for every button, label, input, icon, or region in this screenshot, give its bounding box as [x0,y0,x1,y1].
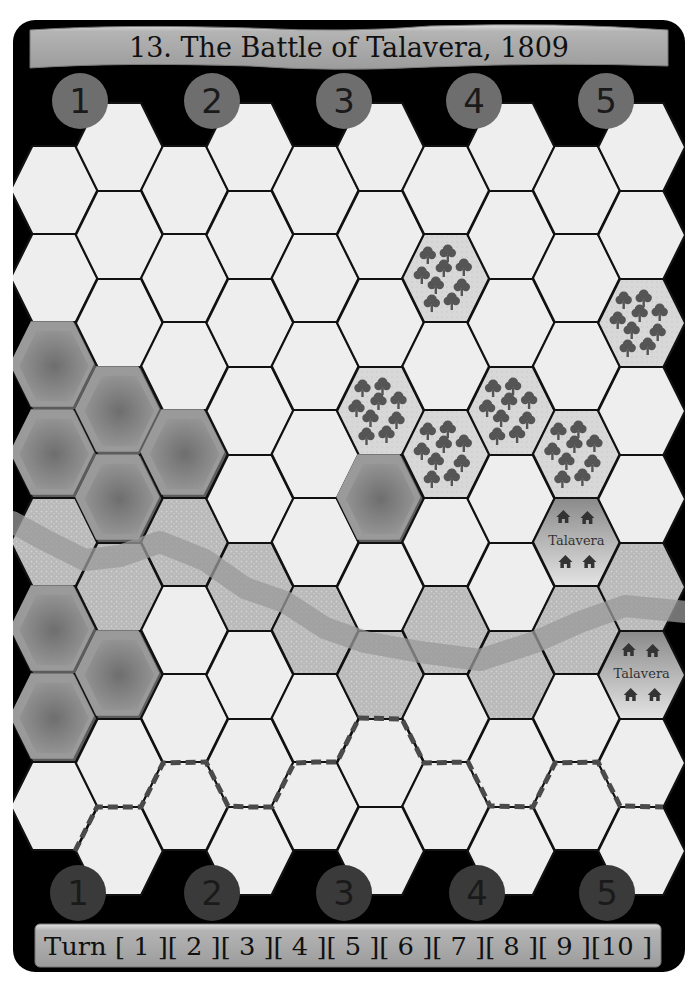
bottom-section-marker-3: 3 [316,865,372,921]
svg-text:3: 3 [333,81,355,121]
turn-track-text: Turn [ 1 ][ 2 ][ 3 ][ 4 ][ 5 ][ 6 ][ 7 ]… [44,933,652,961]
svg-text:1: 1 [67,873,89,913]
bottom-section-marker-4: 4 [449,865,505,921]
bottom-section-marker-5: 5 [579,865,635,921]
svg-text:2: 2 [201,873,223,913]
svg-text:2: 2 [201,81,223,121]
top-section-marker-4: 4 [446,73,502,129]
top-section-marker-5: 5 [578,73,634,129]
svg-text:4: 4 [466,873,488,913]
top-section-marker-2: 2 [184,73,240,129]
bottom-section-marker-2: 2 [184,865,240,921]
title-banner: 13. The Battle of Talavera, 1809 [30,25,668,70]
svg-text:5: 5 [596,873,618,913]
svg-text:1: 1 [69,81,91,121]
top-section-marker-1: 1 [52,73,108,129]
svg-text:5: 5 [595,81,617,121]
top-section-marker-3: 3 [316,73,372,129]
town-label: Talavera [614,666,671,681]
bottom-section-marker-1: 1 [50,865,106,921]
svg-text:3: 3 [333,873,355,913]
scenario-title: 13. The Battle of Talavera, 1809 [129,32,569,63]
turn-track: Turn [ 1 ][ 2 ][ 3 ][ 4 ][ 5 ][ 6 ][ 7 ]… [35,924,661,967]
town-label: Talavera [548,533,605,548]
svg-text:4: 4 [463,81,485,121]
scenario-board: TalaveraTalavera 13. The Battle of Talav… [0,0,698,983]
